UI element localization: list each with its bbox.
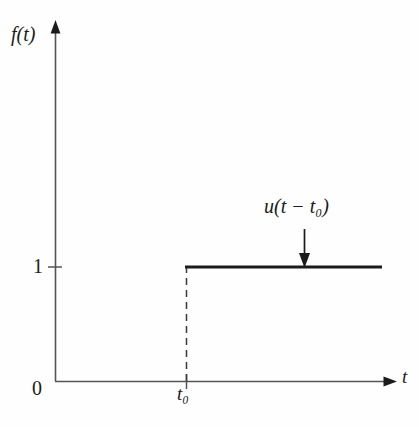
step-function-annotation: u(t − t₀) [264,196,329,216]
x-tick-label-t0: t₀ [177,384,189,403]
x-axis-label: t [402,367,407,386]
y-tick-label-1: 1 [33,256,43,276]
y-axis-label: f(t) [11,24,35,44]
step-function-figure: f(t) t 1 0 t₀ u(t − t₀) [0,0,419,427]
origin-label: 0 [32,378,42,398]
figure-background [0,0,419,427]
plot-canvas [0,0,419,427]
